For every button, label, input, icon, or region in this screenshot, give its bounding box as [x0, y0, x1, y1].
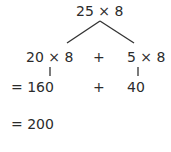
- plus-operator-row1: +: [93, 49, 105, 65]
- final-result: = 200: [11, 116, 54, 132]
- right-branch-expression: 5 × 8: [127, 49, 165, 65]
- right-branch-line: [100, 21, 134, 43]
- root-expression: 25 × 8: [76, 3, 123, 19]
- plus-operator-row2: +: [93, 79, 105, 95]
- left-branch-line: [67, 21, 100, 43]
- right-branch-result: 40: [127, 79, 145, 95]
- left-branch-result: = 160: [11, 79, 54, 95]
- left-branch-expression: 20 × 8: [26, 49, 73, 65]
